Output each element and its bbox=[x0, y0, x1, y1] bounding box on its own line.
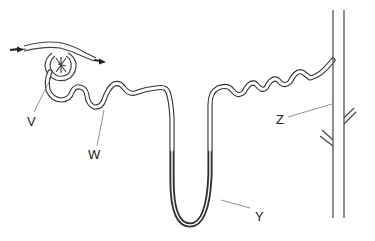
renal-tubule bbox=[47, 60, 333, 225]
label-w: W bbox=[88, 148, 100, 161]
pointer-z bbox=[288, 104, 332, 117]
pointer-w bbox=[97, 110, 104, 146]
glomerulus-icon bbox=[56, 57, 66, 73]
arrow-in-icon bbox=[10, 49, 18, 50]
nephron-diagram bbox=[0, 0, 375, 241]
pointer-y bbox=[221, 200, 250, 208]
label-y: Y bbox=[255, 210, 264, 223]
label-z: Z bbox=[276, 113, 284, 126]
label-v: V bbox=[27, 115, 36, 128]
collecting-duct bbox=[320, 10, 356, 218]
